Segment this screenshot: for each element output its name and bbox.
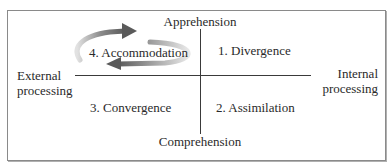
axis-label-right-line2: processing bbox=[322, 81, 378, 96]
quadrant-accommodation: 4. Accommodation bbox=[89, 46, 188, 60]
quadrant-assimilation: 2. Assimilation bbox=[216, 101, 295, 115]
axis-label-right: Internal processing bbox=[322, 66, 378, 96]
axis-label-top: Apprehension bbox=[0, 15, 390, 29]
axis-label-right-line1: Internal bbox=[322, 66, 378, 81]
axis-label-left-line1: External bbox=[17, 68, 73, 83]
quadrant-divergence: 1. Divergence bbox=[218, 44, 291, 58]
axis-label-bottom: Comprehension bbox=[0, 135, 390, 149]
quadrant-convergence: 3. Convergence bbox=[90, 101, 171, 115]
axis-label-left-line2: processing bbox=[17, 83, 73, 98]
axis-label-left: External processing bbox=[17, 68, 73, 98]
